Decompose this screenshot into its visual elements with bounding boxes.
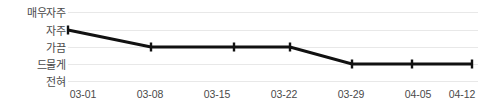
x-axis-label-0412: 04-12 <box>449 88 475 100</box>
x-axis-label-0322: 03-22 <box>271 88 297 100</box>
x-axis-label-0301: 03-01 <box>70 88 96 100</box>
x-axis-label-0405: 04-05 <box>405 88 431 100</box>
x-axis-label-0315: 03-15 <box>204 88 230 100</box>
x-axis-label-0308: 03-08 <box>137 88 163 100</box>
x-axis-label-0329: 03-29 <box>338 88 364 100</box>
line-chart: 매우자주 자주 가끔 드물게 전혀 03-01 03-08 03-15 03-2… <box>0 0 488 104</box>
series-line <box>68 30 472 64</box>
